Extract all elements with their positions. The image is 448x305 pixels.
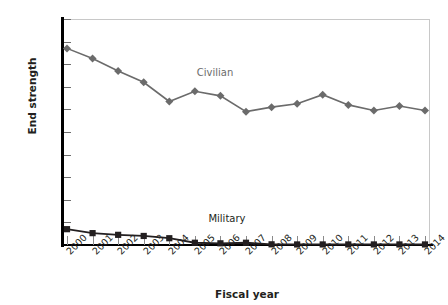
data-point-marker xyxy=(63,44,71,52)
chart-container: End strength Fiscal year 20,00018,00016,… xyxy=(0,0,448,305)
data-point-marker xyxy=(191,87,199,95)
data-point-marker xyxy=(396,241,402,247)
data-point-marker xyxy=(421,107,429,115)
data-point-marker xyxy=(294,241,300,247)
data-point-marker xyxy=(371,241,377,247)
data-point-marker xyxy=(114,67,122,75)
data-point-marker xyxy=(89,230,95,236)
series-label-military: Military xyxy=(208,213,245,224)
data-point-marker xyxy=(293,100,301,108)
data-point-marker xyxy=(345,241,351,247)
series-label-civilian: Civilian xyxy=(197,67,233,78)
series-line xyxy=(67,48,425,111)
data-point-marker xyxy=(216,92,224,100)
data-point-marker xyxy=(268,103,276,111)
data-point-marker xyxy=(370,107,378,115)
data-point-marker xyxy=(141,233,147,239)
data-point-marker xyxy=(319,91,327,99)
data-point-marker xyxy=(320,241,326,247)
data-point-marker xyxy=(422,241,428,247)
data-point-marker xyxy=(192,240,198,246)
data-point-marker xyxy=(242,108,250,116)
data-point-marker xyxy=(166,235,172,241)
data-point-marker xyxy=(217,240,223,246)
data-point-marker xyxy=(395,102,403,110)
data-point-marker xyxy=(243,240,249,246)
data-point-marker xyxy=(344,101,352,109)
data-point-marker xyxy=(268,241,274,247)
data-point-marker xyxy=(64,226,70,232)
data-point-marker xyxy=(115,232,121,238)
series-military xyxy=(64,226,428,247)
data-series-layer xyxy=(0,0,448,305)
series-civilian xyxy=(63,44,429,115)
data-point-marker xyxy=(89,55,97,63)
